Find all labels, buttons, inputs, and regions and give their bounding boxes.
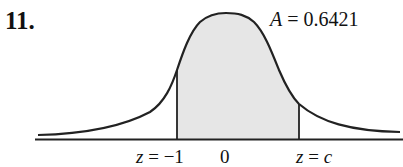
axis-label-center: 0 (220, 146, 230, 167)
area-label: A = 0.6421 (268, 8, 359, 30)
normal-curve-diagram: A = 0.6421 z = −1 0 z = c (0, 0, 403, 167)
axis-label-left: z = −1 (135, 146, 184, 167)
axis-label-right: z = c (295, 146, 333, 167)
